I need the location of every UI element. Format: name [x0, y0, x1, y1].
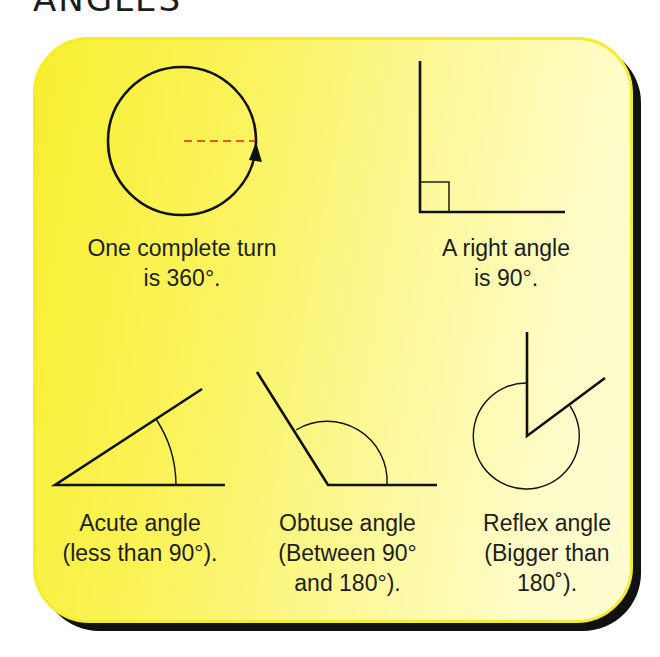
obtuse-angle-figure [257, 372, 437, 485]
acute-angle-lines [55, 389, 225, 485]
acute-angle-figure [55, 389, 225, 485]
caption-line: One complete turn [72, 233, 292, 263]
right-angle-marker [420, 182, 449, 212]
caption-line: Obtuse angle [255, 508, 440, 538]
caption-line: Acute angle [40, 508, 240, 538]
acute-angle-arc [156, 419, 176, 485]
caption-line: (Between 90° [255, 538, 440, 568]
caption-reflex-angle: Reflex angle (Bigger than 180˚). [462, 508, 632, 598]
turn-arrow-icon [249, 142, 262, 162]
caption-line: is 360°. [72, 263, 292, 293]
caption-line: is 90°. [416, 263, 596, 293]
full-turn-circle [108, 67, 256, 215]
reflex-angle-figure [473, 332, 605, 489]
caption-line: and 180°). [255, 568, 440, 598]
reflex-angle-lines [527, 332, 605, 436]
right-angle-lines [420, 61, 565, 212]
caption-acute-angle: Acute angle (less than 90°). [40, 508, 240, 568]
obtuse-angle-arc [296, 421, 387, 485]
full-turn-figure [108, 67, 262, 215]
caption-right-angle: A right angle is 90°. [416, 233, 596, 293]
caption-line: (less than 90°). [40, 538, 240, 568]
caption-line: (Bigger than [462, 538, 632, 568]
caption-line: 180˚). [462, 568, 632, 598]
caption-full-turn: One complete turn is 360°. [72, 233, 292, 293]
caption-obtuse-angle: Obtuse angle (Between 90° and 180°). [255, 508, 440, 598]
caption-line: Reflex angle [462, 508, 632, 538]
obtuse-angle-lines [257, 372, 437, 485]
caption-line: A right angle [416, 233, 596, 263]
right-angle-figure [420, 61, 565, 212]
